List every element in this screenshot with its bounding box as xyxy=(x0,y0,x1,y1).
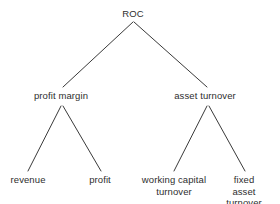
edge-profit-margin-revenue xyxy=(28,106,61,171)
edge-root-asset-turnover xyxy=(134,22,207,87)
diagram-canvas: ROC profit margin asset turnover revenue… xyxy=(0,0,280,204)
edge-asset-turnover-working-capital-turnover xyxy=(174,106,207,171)
node-profit: profit xyxy=(89,174,111,186)
edge-asset-turnover-fixed-asset-turnover xyxy=(209,106,245,171)
node-roc: ROC xyxy=(122,8,143,20)
edge-profit-margin-profit xyxy=(63,106,101,171)
edge-root-profit-margin xyxy=(63,22,133,87)
node-fixed-asset-turnover: fixed asset turnover xyxy=(226,174,262,204)
node-asset-turnover: asset turnover xyxy=(174,90,236,102)
node-revenue: revenue xyxy=(10,174,45,186)
node-working-capital-turnover: working capital turnover xyxy=(142,174,206,197)
node-profit-margin: profit margin xyxy=(34,90,88,102)
